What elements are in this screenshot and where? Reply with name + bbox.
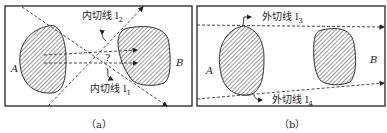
label-shape-b: B <box>369 54 377 65</box>
label-shape-a: A <box>205 65 213 76</box>
label-inner-tangent-l1: 内切线 l1 <box>90 82 131 97</box>
pointer-l4 <box>254 95 262 100</box>
label-outer-tangent-l3: 外切线 l3 <box>262 10 303 25</box>
pointer-l2 <box>100 30 106 41</box>
shape-a-left <box>20 25 66 93</box>
shape-b-right <box>314 29 356 85</box>
pointer-l3 <box>243 17 251 25</box>
shape-a-left <box>219 26 264 95</box>
caption-b: （b） <box>279 119 305 130</box>
shape-b-right <box>118 27 170 86</box>
outer-tangent-l3 <box>197 25 384 27</box>
caption-a: （a） <box>86 119 112 130</box>
pointer-l1 <box>107 68 113 80</box>
center-question-mark: ? <box>105 52 110 63</box>
panel-b: 外切线 l3 外切线 l4 A B （b） <box>197 6 385 130</box>
panel-a: 内切线 l2 内切线 l1 ? A B （a） <box>5 6 192 130</box>
label-shape-a: A <box>10 63 18 74</box>
label-shape-b: B <box>175 57 183 68</box>
tangent-lines-diagram: 内切线 l2 内切线 l1 ? A B （a） 外切线 l3 外切线 l4 A … <box>0 0 387 133</box>
label-inner-tangent-l2: 内切线 l2 <box>82 9 123 24</box>
